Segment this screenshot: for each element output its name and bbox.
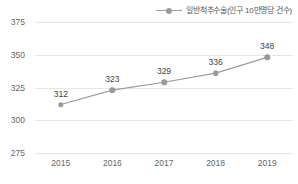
data-point-marker (58, 102, 64, 108)
data-point-marker (110, 87, 116, 93)
legend-dot-icon (166, 8, 172, 14)
data-point-label: 312 (54, 89, 68, 99)
legend-label-series-1: 일반척추수술(인구 10만명당 건수) (186, 7, 292, 15)
legend-marker-icon (156, 6, 182, 15)
data-point-marker (161, 80, 167, 86)
y-axis-tick-label: 325 (0, 83, 25, 93)
x-axis-tick-label: 2015 (41, 158, 81, 168)
data-point-label: 323 (105, 74, 119, 84)
chart-legend: 일반척추수술(인구 10만명당 건수) (156, 6, 292, 15)
y-axis-tick-label: 350 (0, 50, 25, 60)
data-point-label: 348 (260, 41, 274, 51)
y-axis-tick-label: 300 (0, 115, 25, 125)
series-line (35, 22, 293, 153)
y-axis-tick-label: 275 (0, 148, 25, 158)
line-chart: 일반척추수술(인구 10만명당 건수) 275300325350375 2015… (0, 0, 298, 184)
plot-area: 275300325350375 20152016201720182019 312… (35, 22, 293, 153)
y-axis-tick-label: 375 (0, 17, 25, 27)
x-axis-tick-label: 2016 (92, 158, 132, 168)
data-point-marker (213, 70, 219, 76)
data-point-label: 329 (157, 66, 171, 76)
data-point-label: 336 (209, 57, 223, 67)
x-axis-tick-label: 2019 (247, 158, 287, 168)
x-axis-tick-label: 2018 (196, 158, 236, 168)
data-point-marker (264, 55, 270, 61)
x-axis-tick-label: 2017 (144, 158, 184, 168)
gridline (35, 153, 293, 154)
